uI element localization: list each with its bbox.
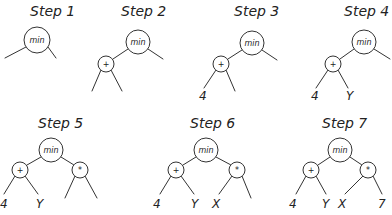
tree-edge — [160, 176, 171, 194]
tree-edge — [204, 70, 216, 88]
tree-edge — [219, 176, 232, 194]
tree-edge — [345, 176, 363, 194]
tree-node-min: min — [39, 138, 63, 162]
tree-edge — [262, 50, 277, 60]
node-operator-label: + — [218, 60, 225, 69]
leaf-operand-label: X — [211, 197, 221, 211]
tree-edge — [27, 157, 41, 165]
step-4-group: Step 4min+4Y — [311, 3, 390, 103]
leaf-operand-label: X — [337, 197, 347, 211]
leaf-operand-label: 4 — [199, 89, 207, 103]
tree-node-plus: + — [325, 56, 341, 72]
tree-edge — [148, 49, 163, 59]
leaf-operand-label: Y — [36, 197, 45, 211]
tree-edge — [350, 157, 362, 165]
tree-edge — [113, 49, 128, 59]
tree-node-plus: + — [12, 162, 28, 178]
step-5-group: Step 5min+*4Y — [0, 115, 97, 211]
node-operator-label: min — [29, 36, 44, 45]
leaf-operand-label: Y — [346, 89, 355, 103]
tree-edge — [183, 157, 196, 165]
node-operator-label: min — [198, 146, 213, 155]
tree-edge — [226, 70, 235, 91]
node-operator-label: + — [173, 166, 180, 175]
tree-node-mul: * — [72, 162, 88, 178]
leaf-operand-label: 4 — [289, 197, 297, 211]
leaf-operand-label: 4 — [311, 89, 319, 103]
node-operator-label: + — [17, 166, 24, 175]
tree-edge — [374, 49, 390, 59]
node-operator-label: min — [43, 146, 58, 155]
node-operator-label: + — [308, 166, 315, 175]
tree-node-plus: + — [303, 162, 319, 178]
tree-edge — [316, 176, 326, 194]
leaf-operand-label: 4 — [0, 197, 8, 211]
step-label: Step 1 — [30, 3, 75, 19]
tree-node-plus: + — [213, 56, 229, 72]
step-label: Step 3 — [234, 3, 279, 19]
tree-edge — [296, 176, 306, 194]
tree-edge — [228, 50, 242, 59]
tree-edge — [48, 47, 56, 58]
tree-edge — [61, 157, 74, 165]
tree-edge — [242, 176, 251, 198]
step-label: Step 2 — [121, 3, 166, 19]
node-operator-label: + — [330, 60, 337, 69]
step-label: Step 7 — [322, 115, 367, 131]
node-operator-label: min — [244, 39, 259, 48]
tree-edge — [25, 176, 38, 194]
leaf-operand-label: 4 — [153, 197, 161, 211]
tree-node-plus: + — [168, 162, 184, 178]
leaf-operand-label: Y — [191, 197, 200, 211]
step-6-group: Step 6min+*4YX — [153, 115, 251, 211]
tree-node-min: min — [194, 138, 218, 162]
step-label: Step 4 — [344, 3, 389, 19]
tree-edge — [4, 176, 15, 194]
step-label: Step 5 — [38, 115, 83, 131]
tree-edge — [181, 176, 194, 194]
tree-edge — [85, 176, 97, 198]
tree-node-mul: * — [360, 162, 376, 178]
tree-edge — [338, 70, 348, 88]
step-label: Step 6 — [190, 115, 235, 131]
step-7-group: Step 7min+*4YX7 — [289, 115, 386, 211]
tree-node-mul: * — [229, 162, 245, 178]
step-2-group: Step 2min+ — [92, 3, 166, 91]
tree-edge — [373, 176, 382, 194]
tree-node-min: min — [328, 138, 352, 162]
tree-node-min: min — [24, 27, 50, 53]
node-operator-label: + — [103, 60, 110, 69]
node-operator-label: min — [332, 146, 347, 155]
tree-node-plus: + — [98, 56, 114, 72]
leaf-operand-label: 7 — [378, 197, 386, 211]
tree-edge — [111, 70, 122, 91]
node-operator-label: * — [78, 166, 82, 175]
tree-edge — [340, 49, 354, 59]
leaf-operand-label: Y — [322, 197, 331, 211]
tree-edge — [316, 70, 328, 88]
tree-node-min: min — [240, 31, 264, 55]
tree-node-min: min — [352, 30, 376, 54]
node-operator-label: * — [366, 166, 370, 175]
step-1-group: Step 1min — [5, 3, 75, 58]
step-3-group: Step 3min+4 — [199, 3, 279, 103]
tree-edge — [92, 70, 101, 91]
node-operator-label: * — [235, 166, 239, 175]
node-operator-label: min — [130, 38, 145, 47]
expression-tree-diagram: Step 1minStep 2min+Step 3min+4Step 4min+… — [0, 0, 392, 215]
tree-edge — [318, 157, 330, 165]
tree-edge — [65, 176, 75, 198]
tree-node-min: min — [126, 30, 150, 54]
tree-edge — [216, 157, 231, 165]
node-operator-label: min — [356, 38, 371, 47]
tree-edge — [5, 47, 26, 58]
